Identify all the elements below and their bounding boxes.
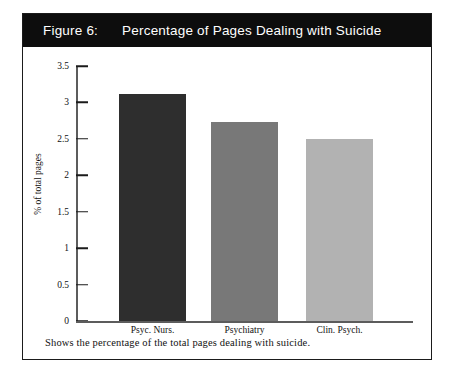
bars-layer	[23, 47, 431, 321]
figure-number-label: Figure 6:	[43, 23, 98, 38]
figure-title-text: Percentage of Pages Dealing with Suicide	[122, 23, 381, 38]
bar-2	[211, 122, 278, 321]
figure-caption: Shows the percentage of the total pages …	[23, 325, 431, 359]
figure-frame: Figure 6: Percentage of Pages Dealing wi…	[22, 13, 432, 360]
figure-title-bar: Figure 6: Percentage of Pages Dealing wi…	[23, 14, 431, 47]
bar-3	[306, 139, 373, 321]
bar-1	[119, 94, 186, 321]
chart-plot-area: % of total pages 00.511.522.533.5 Psyc. …	[23, 47, 431, 327]
x-axis-line	[76, 321, 413, 323]
